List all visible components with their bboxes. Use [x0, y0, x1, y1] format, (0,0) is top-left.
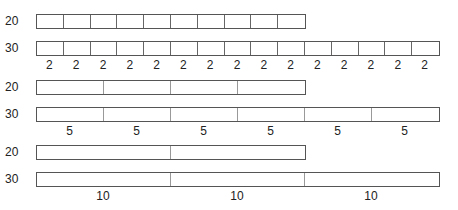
segment-cell — [278, 42, 305, 55]
segment-label: 5 — [237, 124, 304, 138]
segment-label: 2 — [197, 58, 224, 72]
segment-cell — [225, 15, 252, 28]
segment-cell — [171, 81, 238, 94]
segment-label: 2 — [63, 58, 90, 72]
segment-label: 5 — [371, 124, 438, 138]
segment-cell — [372, 108, 439, 121]
segment-cell — [238, 81, 305, 94]
length-bar — [36, 80, 306, 95]
segment-label: 5 — [170, 124, 237, 138]
segment-label: 10 — [170, 189, 304, 203]
segment-cell — [64, 15, 91, 28]
segment-cell — [37, 81, 104, 94]
row-label: 20 — [5, 145, 31, 159]
segment-cell — [171, 15, 198, 28]
segment-labels: 101010 — [36, 189, 438, 203]
segment-cell — [171, 146, 305, 159]
segment-labels: 222222222222222 — [36, 58, 438, 72]
segment-cell — [117, 15, 144, 28]
segment-label: 5 — [103, 124, 170, 138]
segment-label: 2 — [358, 58, 385, 72]
row-label: 30 — [5, 41, 31, 55]
segment-cell — [37, 146, 171, 159]
segment-labels: 555555 — [36, 124, 438, 138]
segment-label: 2 — [384, 58, 411, 72]
segment-cell — [359, 42, 386, 55]
segment-cell — [91, 42, 118, 55]
row-label: 30 — [5, 172, 31, 186]
length-bar — [36, 145, 306, 160]
segment-label: 2 — [116, 58, 143, 72]
segment-cell — [64, 42, 91, 55]
segment-cell — [332, 42, 359, 55]
length-bar — [36, 172, 440, 187]
segment-cell — [37, 173, 171, 186]
segment-cell — [278, 15, 305, 28]
segment-cell — [385, 42, 412, 55]
segment-cell — [305, 42, 332, 55]
length-bar — [36, 14, 306, 29]
segment-label: 2 — [250, 58, 277, 72]
row-label: 20 — [5, 14, 31, 28]
segment-label: 10 — [36, 189, 170, 203]
segment-label: 2 — [170, 58, 197, 72]
segment-label: 2 — [304, 58, 331, 72]
length-bar — [36, 41, 440, 56]
segment-label: 2 — [277, 58, 304, 72]
segment-cell — [171, 173, 305, 186]
segment-label: 5 — [36, 124, 103, 138]
segment-cell — [37, 15, 64, 28]
segment-label: 2 — [411, 58, 438, 72]
segment-cell — [305, 108, 372, 121]
segment-label: 2 — [90, 58, 117, 72]
segment-cell — [251, 15, 278, 28]
segment-cell — [171, 108, 238, 121]
segment-label: 10 — [304, 189, 438, 203]
segment-cell — [117, 42, 144, 55]
segment-label: 5 — [304, 124, 371, 138]
segment-cell — [171, 42, 198, 55]
segment-cell — [238, 108, 305, 121]
row-label: 30 — [5, 107, 31, 121]
segment-cell — [104, 81, 171, 94]
segment-cell — [91, 15, 118, 28]
segment-cell — [412, 42, 439, 55]
segment-cell — [198, 15, 225, 28]
segment-cell — [104, 108, 171, 121]
segment-label: 2 — [36, 58, 63, 72]
segment-cell — [251, 42, 278, 55]
segment-cell — [225, 42, 252, 55]
segment-cell — [144, 15, 171, 28]
segment-cell — [305, 173, 439, 186]
length-bar — [36, 107, 440, 122]
row-label: 20 — [5, 80, 31, 94]
segment-cell — [37, 42, 64, 55]
segment-label: 2 — [331, 58, 358, 72]
segment-cell — [144, 42, 171, 55]
segment-label: 2 — [143, 58, 170, 72]
segment-cell — [198, 42, 225, 55]
segment-cell — [37, 108, 104, 121]
segment-label: 2 — [224, 58, 251, 72]
